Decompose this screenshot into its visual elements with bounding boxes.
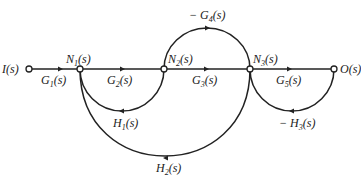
signal-flow-graph: I(s) O(s) N1(s) N2(s) N3(s) G1(s) G2(s) … <box>0 0 361 181</box>
arrow-h1-icon <box>119 109 124 114</box>
label-n2: N2(s) <box>167 52 193 68</box>
label-h2: H2(s) <box>155 161 181 177</box>
label-g2: G2(s) <box>107 73 132 89</box>
label-g4: − G4(s) <box>189 8 225 24</box>
node-n3 <box>247 66 253 72</box>
label-g3: G3(s) <box>192 73 217 89</box>
label-n3: N3(s) <box>252 52 278 68</box>
arrow-g2-icon <box>120 67 125 72</box>
node-output <box>331 66 337 72</box>
label-g5: G5(s) <box>276 73 301 89</box>
node-n2 <box>161 66 167 72</box>
label-n1: N1(s) <box>65 52 91 68</box>
arrow-h3-icon <box>289 109 294 114</box>
arrow-g4-icon <box>205 26 210 31</box>
label-output: O(s) <box>340 62 361 76</box>
label-g1: G1(s) <box>41 73 66 89</box>
arrow-g5-icon <box>287 67 292 72</box>
label-h3: − H3(s) <box>279 116 315 132</box>
label-input: I(s) <box>1 62 19 76</box>
h2-branch <box>80 69 250 156</box>
arrow-g3-icon <box>204 67 209 72</box>
label-h1: H1(s) <box>112 116 138 132</box>
arrow-g1-icon <box>58 67 63 72</box>
node-input <box>26 66 32 72</box>
